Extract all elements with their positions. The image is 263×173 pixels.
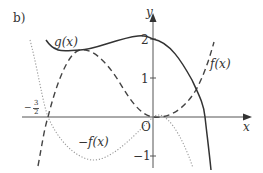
neg-sign: − — [24, 103, 32, 112]
frac-numerator: 3 — [34, 100, 38, 107]
frac-denominator: 2 — [34, 109, 38, 116]
graph-canvas — [0, 0, 263, 173]
g-curve-label: g(x) — [54, 36, 78, 48]
function-graph-figure: b) y x 2 1 −1 O − 3 2 g(x) f(x) −f(x) — [0, 0, 263, 173]
f-curve-label: f(x) — [210, 58, 231, 70]
f-curve — [38, 42, 214, 166]
part-label: b) — [13, 12, 25, 24]
origin-label: O — [141, 121, 151, 133]
neg-f-curve — [30, 40, 193, 168]
neg-f-curve-label: −f(x) — [78, 136, 109, 148]
g-curve — [46, 36, 211, 170]
y-tick-label-2: 2 — [141, 34, 149, 46]
y-axis-label: y — [146, 6, 153, 18]
x-axis-label: x — [243, 121, 250, 133]
y-tick-label-1: 1 — [141, 73, 149, 85]
y-tick-label-neg1: −1 — [133, 150, 151, 162]
